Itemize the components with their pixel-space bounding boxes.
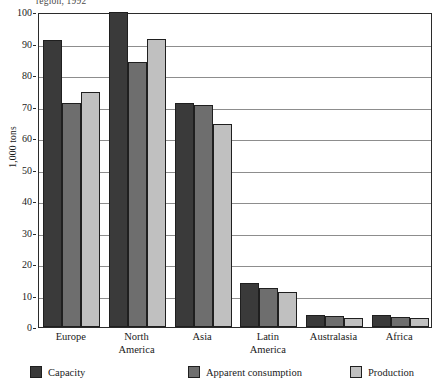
bar [43, 40, 62, 327]
legend-item: Production [350, 366, 414, 378]
bar [344, 318, 363, 327]
bar [147, 39, 166, 327]
y-tick-label: 40 [22, 197, 32, 207]
x-axis-label-line: Europe [38, 331, 104, 344]
legend-label: Production [368, 367, 414, 378]
bar [410, 318, 429, 327]
bar-group [302, 14, 368, 327]
bar-group [367, 14, 433, 327]
chart-legend: CapacityApparent consumptionProduction [0, 366, 445, 388]
x-axis-label: Australasia [301, 331, 367, 344]
legend-item: Apparent consumption [188, 366, 302, 378]
x-axis-label-line: Africa [366, 331, 432, 344]
y-tick-mark [33, 171, 36, 172]
bar [194, 105, 213, 327]
y-tick-mark [33, 139, 36, 140]
x-axis-label-line: America [235, 344, 301, 357]
x-axis-label: LatinAmerica [235, 331, 301, 356]
bar-group [105, 14, 171, 327]
bar [62, 103, 81, 327]
bar-group [236, 14, 302, 327]
y-tick-label: 20 [22, 260, 32, 270]
bar [175, 103, 194, 327]
bar [81, 92, 100, 327]
bar-group [39, 14, 105, 327]
bar [109, 12, 128, 327]
y-tick-label: 100 [17, 8, 32, 18]
y-tick-mark [33, 13, 36, 14]
legend-swatch [30, 366, 42, 378]
legend-label: Apparent consumption [206, 367, 302, 378]
bar [306, 315, 325, 327]
y-tick-mark [33, 45, 36, 46]
bar-group [170, 14, 236, 327]
y-tick-label: 30 [22, 229, 32, 239]
bar-chart-figure: region, 1992 1,000 tons 0102030405060708… [0, 0, 445, 389]
y-tick-mark [33, 297, 36, 298]
y-tick-mark [33, 234, 36, 235]
x-axis-label: NorthAmerica [104, 331, 170, 356]
y-tick-mark [33, 265, 36, 266]
x-axis-label: Africa [366, 331, 432, 344]
plot-area [38, 13, 432, 328]
bar [213, 124, 232, 327]
y-tick-label: 90 [22, 40, 32, 50]
x-axis-label: Asia [169, 331, 235, 344]
y-axis-tick-labels: 0102030405060708090100 [0, 13, 36, 328]
x-axis-label-line: North [104, 331, 170, 344]
y-tick-label: 0 [27, 323, 32, 333]
legend-label: Capacity [48, 367, 85, 378]
bar [325, 316, 344, 327]
legend-item: Capacity [30, 366, 85, 378]
bar [391, 317, 410, 327]
x-axis-label-line: Asia [169, 331, 235, 344]
y-tick-label: 70 [22, 103, 32, 113]
legend-swatch [350, 366, 362, 378]
y-tick-label: 10 [22, 292, 32, 302]
bar [259, 288, 278, 327]
y-tick-label: 50 [22, 166, 32, 176]
y-tick-label: 60 [22, 134, 32, 144]
caption-fragment: region, 1992 [36, 0, 86, 6]
bar [372, 315, 391, 327]
x-axis-label-line: America [104, 344, 170, 357]
y-tick-mark [33, 328, 36, 329]
y-tick-mark [33, 202, 36, 203]
x-axis-label-line: Australasia [301, 331, 367, 344]
y-tick-mark [33, 76, 36, 77]
bar [240, 283, 259, 327]
y-tick-mark [33, 108, 36, 109]
legend-swatch [188, 366, 200, 378]
x-axis-label-line: Latin [235, 331, 301, 344]
y-tick-label: 80 [22, 71, 32, 81]
x-axis-label: Europe [38, 331, 104, 344]
x-axis-category-labels: EuropeNorthAmericaAsiaLatinAmericaAustra… [38, 331, 432, 363]
bar [128, 62, 147, 327]
bar-series-container [39, 14, 431, 327]
bar [278, 292, 297, 327]
